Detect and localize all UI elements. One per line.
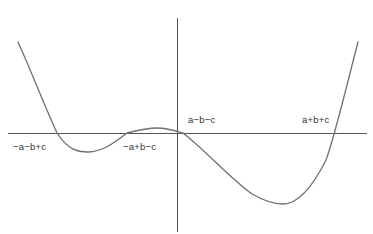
root-label-4: a+b+c — [302, 114, 329, 125]
root-label-3: a−b−c — [188, 114, 215, 125]
root-label-2: −a+b−c — [123, 141, 156, 152]
root-label-1: −a−b+c — [13, 141, 46, 152]
function-graph-figure: −a−b+c −a+b−c a−b−c a+b+c — [0, 0, 373, 234]
